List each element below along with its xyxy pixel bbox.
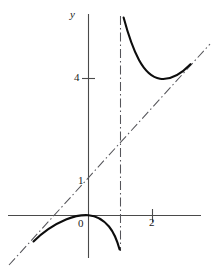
- plot-canvas: [0, 0, 217, 269]
- origin-label: 0: [78, 218, 84, 229]
- curve-left-branch: [34, 215, 120, 249]
- y-tick-label-1: 1: [78, 175, 84, 186]
- y-axis-label: y: [70, 9, 75, 20]
- slant-asymptote-line: [9, 44, 210, 265]
- curve-right-branch: [124, 18, 191, 79]
- x-tick-label-2: 2: [149, 217, 155, 228]
- y-tick-label-4: 4: [74, 72, 80, 83]
- rational-function-figure: y 4 1 0 2: [0, 0, 217, 269]
